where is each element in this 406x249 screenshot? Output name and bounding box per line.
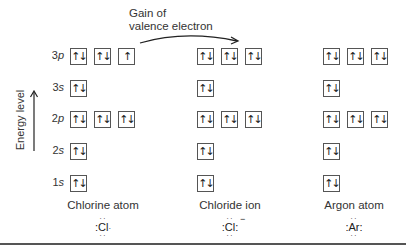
bottom-rule [0,243,406,245]
orbital-box: ↑↓ [323,80,340,97]
orbital-box: ↑↓ [94,111,111,128]
charge-sign: − [240,214,245,224]
orbital-box: ↑↓ [197,143,214,160]
orbital-box: ↑↓ [197,48,214,65]
gain-line-1: Gain of [129,7,213,20]
orbital-label-2p: 2p [42,112,64,124]
orbital-box: ↑↓ [323,48,340,65]
orbital-box: ↑↓ [70,48,87,65]
chloride-lewis-symbol: ·· :Cl: ·· − [200,221,260,233]
orbital-box: ↑↓ [197,111,214,128]
orbital-box: ↑↓ [347,48,364,65]
orbital-box: ↑↓ [245,48,262,65]
chloride-caption: Chloride ion [170,199,290,211]
orbital-box: ↑↓ [323,111,340,128]
energy-level-label: Energy level [14,84,26,156]
orbital-label-2s: 2s [42,144,64,156]
orbital-box: ↑↓ [245,111,262,128]
up-arrow-icon [29,90,39,152]
orbital-box: ↑↓ [371,48,388,65]
argon-caption: Argon atom [294,199,406,211]
orbital-box: ↑↓ [323,175,340,192]
orbital-box: ↑↓ [70,175,87,192]
orbital-label-1s: 1s [42,176,64,188]
chlorine-lewis-symbol: ·· :Cl· ·· [73,221,133,233]
orbital-box: ↑↓ [371,111,388,128]
orbital-box: ↑↓ [347,111,364,128]
curved-arrow-icon [135,30,245,48]
orbital-label-3s: 3s [42,81,64,93]
orbital-box: ↑↓ [323,143,340,160]
orbital-box: ↑↓ [70,111,87,128]
orbital-box: ↑↓ [70,143,87,160]
orbital-label-3p: 3p [42,49,64,61]
orbital-box: ↑↓ [118,111,135,128]
chlorine-caption: Chlorine atom [43,199,163,211]
orbital-box: ↑↓ [197,80,214,97]
orbital-box: ↑↓ [197,175,214,192]
orbital-box: ↑ [118,48,135,65]
orbital-box: ↑↓ [70,80,87,97]
argon-lewis-symbol: ·· :Ar: ·· [324,221,384,233]
orbital-box: ↑↓ [221,111,238,128]
orbital-box: ↑↓ [221,48,238,65]
orbital-box: ↑↓ [94,48,111,65]
